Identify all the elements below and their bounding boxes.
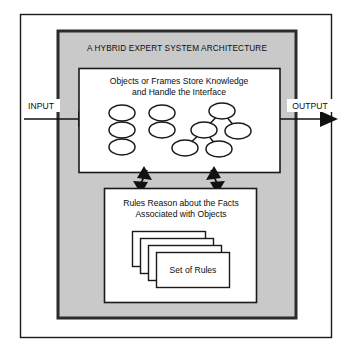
input-label: INPUT — [28, 101, 55, 111]
network-node — [149, 122, 175, 138]
network-node — [191, 122, 217, 138]
network-node — [209, 103, 235, 119]
output-label-group: OUTPUT — [287, 99, 333, 112]
network-node — [109, 139, 135, 155]
network-node — [172, 140, 198, 156]
rules-box-line2: Associated with Objects — [135, 209, 226, 219]
network-node — [225, 123, 251, 139]
network-node — [109, 105, 135, 121]
network-node — [149, 105, 175, 121]
input-label-group: INPUT — [22, 99, 60, 112]
network-node — [206, 141, 232, 157]
rules-card-label: Set of Rules — [170, 265, 217, 275]
page-title: A HYBRID EXPERT SYSTEM ARCHITECTURE — [87, 44, 267, 53]
objects-box-line1: Objects or Frames Store Knowledge — [110, 76, 249, 86]
network-node — [109, 122, 135, 138]
output-label: OUTPUT — [292, 101, 328, 111]
objects-box-line2: and Handle the Interface — [132, 87, 226, 97]
diagram-canvas: A HYBRID EXPERT SYSTEM ARCHITECTURE INPU… — [0, 0, 352, 351]
rules-box-line1: Rules Reason about the Facts — [123, 198, 239, 208]
